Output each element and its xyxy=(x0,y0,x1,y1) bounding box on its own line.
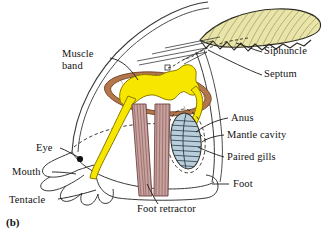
leader-paired-gills xyxy=(198,147,224,157)
label-paired-gills: Paired gills xyxy=(227,151,276,163)
label-muscle-band: Muscleband xyxy=(62,48,94,71)
label-mantle-cavity: Mantle cavity xyxy=(227,129,286,141)
label-eye: Eye xyxy=(36,142,53,154)
label-siphuncle: Siphuncle xyxy=(264,45,307,57)
label-tentacle: Tentacle xyxy=(9,194,45,206)
gill-structure xyxy=(164,107,208,175)
label-mouth: Mouth xyxy=(12,166,41,178)
label-anus: Anus xyxy=(231,112,254,124)
figure-caption: (b) xyxy=(6,216,19,228)
label-septum: Septum xyxy=(264,68,297,80)
leader-septum xyxy=(208,50,262,75)
esophagus-band xyxy=(90,96,136,179)
foot-retractor-muscles xyxy=(132,104,170,196)
anatomy-illustration xyxy=(0,0,329,236)
label-foot-retractor: Foot retractor xyxy=(137,203,196,215)
nautilus-anatomy-figure: Muscleband Siphuncle Septum Anus Mantle … xyxy=(0,0,329,236)
label-foot: Foot xyxy=(233,178,253,190)
shell-right-wall-inner xyxy=(204,50,222,182)
